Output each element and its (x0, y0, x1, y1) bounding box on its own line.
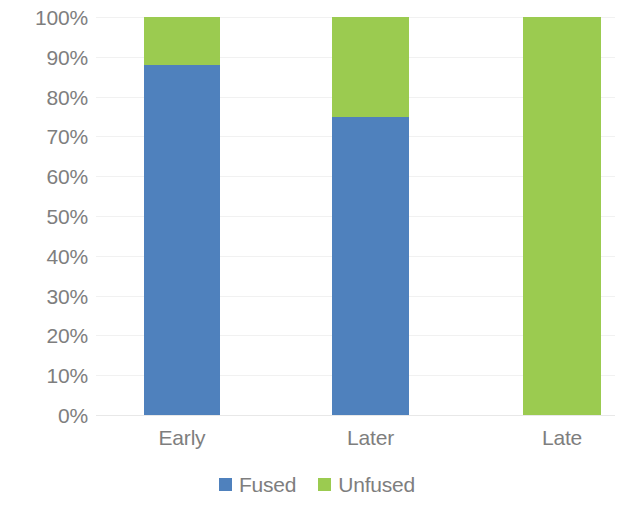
y-axis-tick-label: 40% (0, 245, 88, 266)
bar-segment-unfused-early[interactable] (144, 17, 220, 65)
bar-segment-unfused-late[interactable] (523, 17, 601, 415)
bar-segment-fused-early[interactable] (144, 65, 220, 415)
bar-segment-unfused-later[interactable] (332, 17, 409, 117)
plot-area (96, 17, 615, 415)
legend-item-label: Unfused (338, 474, 415, 495)
y-axis-tick-label: 80% (0, 86, 88, 107)
x-axis: EarlyLaterLate (96, 425, 615, 455)
chart-legend: FusedUnfused (0, 474, 634, 495)
y-axis-tick-label: 10% (0, 365, 88, 386)
y-axis-tick-label: 70% (0, 126, 88, 147)
gridline (96, 415, 615, 416)
y-axis: 0%10%20%30%40%50%60%70%80%90%100% (0, 17, 88, 415)
bar-segment-fused-later[interactable] (332, 117, 409, 416)
x-axis-tick-label: Late (523, 425, 601, 450)
x-axis-tick-label: Early (144, 425, 220, 450)
y-axis-tick-label: 50% (0, 206, 88, 227)
square-swatch (219, 478, 232, 491)
y-axis-tick-label: 90% (0, 46, 88, 67)
legend-item-unfused[interactable]: Unfused (318, 474, 415, 495)
y-axis-tick-label: 0% (0, 405, 88, 426)
bar-column-early[interactable] (144, 17, 220, 415)
y-axis-tick-label: 100% (0, 7, 88, 28)
y-axis-tick-label: 20% (0, 325, 88, 346)
x-axis-tick-label: Later (332, 425, 409, 450)
bar-column-late[interactable] (523, 17, 601, 415)
legend-item-fused[interactable]: Fused (219, 474, 296, 495)
y-axis-tick-label: 60% (0, 166, 88, 187)
y-axis-tick-label: 30% (0, 285, 88, 306)
stacked-bar-chart: 0%10%20%30%40%50%60%70%80%90%100% EarlyL… (0, 0, 634, 507)
square-swatch (318, 478, 331, 491)
bar-column-later[interactable] (332, 17, 409, 415)
legend-item-label: Fused (239, 474, 296, 495)
